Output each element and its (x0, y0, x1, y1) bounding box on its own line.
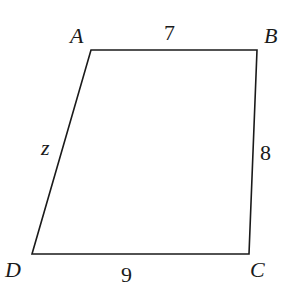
vertex-label-d: D (4, 257, 21, 282)
quadrilateral-diagram: A B C D 7 8 9 z (0, 0, 295, 298)
side-label-bc: 8 (260, 140, 271, 165)
vertex-label-b: B (264, 23, 277, 48)
quadrilateral-abcd (32, 50, 257, 254)
vertex-label-c: C (250, 257, 265, 282)
side-label-da: z (40, 135, 50, 160)
vertex-label-a: A (68, 23, 84, 48)
side-label-cd: 9 (121, 262, 132, 287)
side-label-ab: 7 (164, 20, 175, 45)
